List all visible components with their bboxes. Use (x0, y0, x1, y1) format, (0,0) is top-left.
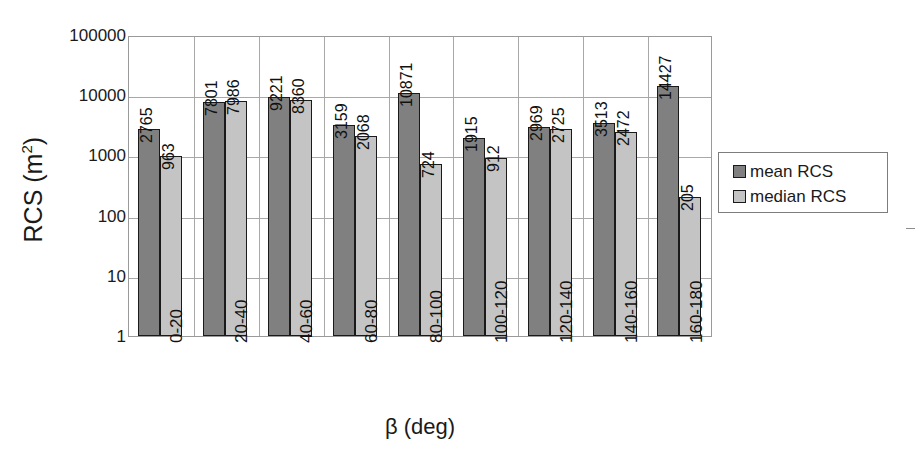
rcs-bar-chart: RCS (m2) 100000100001000100101 276596378… (0, 0, 915, 457)
y-axis-tick-label: 1000 (34, 147, 126, 164)
bar-label-mean-rcs: 9221 (269, 76, 285, 112)
bar-label-median-rcs: 963 (161, 144, 177, 171)
y-axis-tick-label: 10 (34, 268, 126, 285)
bar-label-mean-rcs: 10871 (399, 63, 415, 108)
bar-mean-rcs (268, 97, 290, 336)
bar-group: 2765963 (129, 37, 194, 336)
x-axis-tick-label: 120-140 (558, 281, 575, 343)
bar-mean-rcs (203, 102, 225, 336)
y-axis-tick-label: 100000 (34, 27, 126, 44)
x-axis-tick-label: 60-80 (363, 300, 380, 343)
bar-label-mean-rcs: 14427 (658, 55, 674, 100)
legend-label-mean: mean RCS (750, 163, 833, 180)
bar-group: 78017986 (194, 37, 259, 336)
x-axis-tick-label: 100-120 (493, 281, 510, 343)
bar-label-mean-rcs: 1915 (464, 117, 480, 153)
y-axis-tick-label: 1 (34, 328, 126, 345)
bar-mean-rcs (138, 129, 160, 336)
bar-label-mean-rcs: 7801 (204, 80, 220, 116)
bar-mean-rcs (333, 125, 355, 336)
bar-label-median-rcs: 2725 (551, 108, 567, 144)
bar-label-median-rcs: 2068 (356, 115, 372, 151)
right-edge-tick-mark (906, 228, 915, 229)
y-axis-tick-labels: 100000100001000100101 (34, 0, 126, 457)
x-axis-tick-label: 0-20 (168, 309, 185, 343)
bar-label-median-rcs: 7986 (226, 79, 242, 115)
legend-item-median: median RCS (733, 184, 887, 208)
x-axis-tick-label: 140-160 (623, 281, 640, 343)
bar-mean-rcs (657, 86, 679, 336)
legend-label-median: median RCS (750, 188, 846, 205)
y-axis-title-exponent: 2 (18, 145, 35, 153)
legend-swatch-median-icon (733, 190, 746, 203)
bar-group: 31592068 (324, 37, 389, 336)
bar-group: 92218360 (259, 37, 324, 336)
bar-label-median-rcs: 8360 (291, 78, 307, 114)
bar-mean-rcs (528, 127, 550, 336)
bar-mean-rcs (398, 93, 420, 336)
bar-label-mean-rcs: 3513 (594, 101, 610, 137)
bar-label-mean-rcs: 2969 (529, 105, 545, 141)
legend-swatch-mean-icon (733, 165, 746, 178)
y-axis-tick-label: 10000 (34, 87, 126, 104)
y-axis-tick-label: 100 (34, 208, 126, 225)
bar-label-median-rcs: 205 (680, 184, 696, 211)
x-axis-tick-label: 40-60 (298, 300, 315, 343)
legend-item-mean: mean RCS (733, 159, 887, 183)
x-axis-title: β (deg) (128, 414, 712, 440)
x-axis-tick-label: 80-100 (428, 290, 445, 343)
bar-label-median-rcs: 912 (486, 145, 502, 172)
bar-label-median-rcs: 2472 (616, 110, 632, 146)
bar-mean-rcs (593, 123, 615, 336)
bar-label-mean-rcs: 3159 (334, 104, 350, 140)
bar-label-median-rcs: 724 (421, 151, 437, 178)
chart-legend: mean RCS median RCS (718, 152, 888, 213)
x-axis-tick-label: 20-40 (233, 300, 250, 343)
bar-mean-rcs (463, 138, 485, 336)
x-axis-tick-label: 160-180 (688, 281, 705, 343)
bar-label-mean-rcs: 2765 (139, 107, 155, 143)
